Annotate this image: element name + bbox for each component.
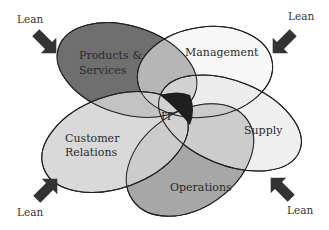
label-services: Services bbox=[79, 64, 127, 77]
label-operations: Operations bbox=[170, 181, 232, 194]
arrow-up-left-icon bbox=[263, 170, 299, 206]
label-relations: Relations bbox=[65, 146, 118, 159]
lean-it-venn-diagram: Products & Services Management Supply Op… bbox=[0, 0, 329, 230]
label-products: Products & bbox=[79, 49, 142, 62]
lean-label-bottom-left: Lean bbox=[17, 206, 43, 218]
label-supply: Supply bbox=[244, 124, 283, 137]
label-management: Management bbox=[185, 46, 259, 59]
label-customer: Customer bbox=[65, 132, 120, 145]
lean-label-bottom-right: Lean bbox=[287, 204, 313, 216]
lean-label-top-right: Lean bbox=[288, 10, 314, 22]
label-it: IT bbox=[161, 110, 173, 123]
lean-label-top-left: Lean bbox=[17, 13, 43, 25]
